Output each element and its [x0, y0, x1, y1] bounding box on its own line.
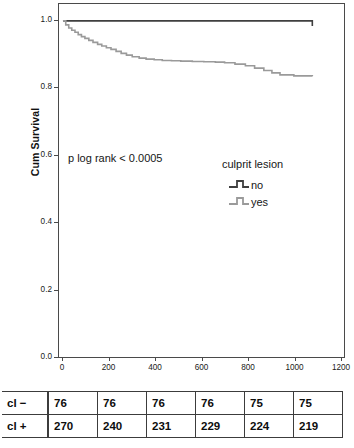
legend-swatch-no [228, 178, 250, 191]
y-tick-mark [54, 290, 58, 291]
x-tick-label: 1000 [275, 363, 315, 372]
table-row: cl −767676767575 [2, 392, 343, 415]
risk-cell: 224 [245, 415, 294, 438]
table-row: cl +270240231229224219 [2, 415, 343, 438]
legend-items: noyes [222, 176, 342, 210]
kaplan-meier-figure: Cum Survival 1.00.80.60.40.20.0 02004006… [0, 0, 354, 448]
x-tick-label: 0 [42, 363, 82, 372]
y-tick-label: 0.4 [22, 217, 52, 226]
y-tick-label: 0.0 [22, 352, 52, 361]
legend-title: culprit lesion [222, 158, 342, 170]
risk-cell: 76 [98, 392, 147, 415]
x-tick-label: 1200 [321, 363, 354, 372]
legend: culprit lesion noyes [222, 158, 342, 210]
numbers-at-risk-table: cl −767676767575cl +270240231229224219 [2, 391, 343, 438]
x-tick-label: 800 [228, 363, 268, 372]
legend-label: no [251, 179, 263, 191]
survival-curve-no [63, 21, 312, 26]
y-axis-title: Cum Survival [29, 77, 41, 207]
risk-row-label: cl + [2, 415, 48, 438]
risk-cell: 75 [294, 392, 343, 415]
y-tick-mark [54, 222, 58, 223]
risk-cell: 75 [245, 392, 294, 415]
p-value-annotation: p log rank < 0.0005 [68, 152, 163, 164]
survival-curve-yes [63, 21, 312, 76]
legend-label: yes [251, 196, 268, 208]
legend-item-yes: yes [222, 193, 342, 210]
y-tick-label: 0.8 [22, 82, 52, 91]
x-tick-mark [248, 357, 249, 361]
y-tick-mark [54, 20, 58, 21]
risk-cell: 76 [147, 392, 196, 415]
x-tick-label: 200 [89, 363, 129, 372]
x-tick-mark [109, 357, 110, 361]
risk-cell: 229 [196, 415, 245, 438]
risk-cell: 270 [48, 415, 98, 438]
risk-cell: 76 [48, 392, 98, 415]
x-tick-mark [62, 357, 63, 361]
y-tick-mark [54, 155, 58, 156]
risk-row-label: cl − [2, 392, 48, 415]
x-tick-label: 400 [135, 363, 175, 372]
x-tick-label: 600 [182, 363, 222, 372]
legend-swatch-yes [228, 195, 250, 208]
y-tick-mark [54, 87, 58, 88]
risk-cell: 231 [147, 415, 196, 438]
risk-cell: 219 [294, 415, 343, 438]
curves-group [63, 21, 312, 76]
x-tick-mark [202, 357, 203, 361]
risk-table-body: cl −767676767575cl +270240231229224219 [2, 392, 343, 438]
x-tick-mark [155, 357, 156, 361]
x-tick-mark [295, 357, 296, 361]
y-tick-mark [54, 357, 58, 358]
legend-item-no: no [222, 176, 342, 193]
y-tick-label: 0.2 [22, 285, 52, 294]
y-tick-label: 1.0 [22, 15, 52, 24]
y-tick-label: 0.6 [22, 150, 52, 159]
risk-cell: 76 [196, 392, 245, 415]
risk-cell: 240 [98, 415, 147, 438]
x-tick-mark [341, 357, 342, 361]
